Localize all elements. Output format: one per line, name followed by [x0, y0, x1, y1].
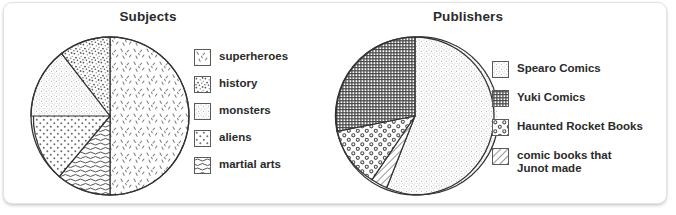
legend-swatch-superheroes-icon — [194, 49, 211, 66]
legend-item-monsters[interactable]: monsters — [194, 102, 334, 129]
legend-label-junot-comic-books: comic books that Junot made — [517, 147, 612, 175]
legend-item-yuki-comics[interactable]: Yuki Comics — [492, 89, 672, 118]
legend-swatch-martial-arts-icon — [194, 157, 211, 174]
legend-label-superheroes: superheroes — [219, 48, 288, 63]
subjects-chart-panel: Subjects — [4, 3, 336, 205]
legend-label-aliens: aliens — [219, 129, 252, 144]
legend-item-spearo-comics[interactable]: Spearo Comics — [492, 60, 672, 89]
subjects-legend: superheroes history monsters aliens — [194, 48, 334, 183]
legend-item-haunted-rocket-books[interactable]: Haunted Rocket Books — [492, 118, 672, 147]
legend-item-history[interactable]: history — [194, 75, 334, 102]
legend-label-yuki-comics: Yuki Comics — [517, 89, 585, 104]
legend-item-aliens[interactable]: aliens — [194, 129, 334, 156]
publishers-chart-panel: Publishers — [336, 3, 668, 205]
legend-item-junot-comic-books[interactable]: comic books that Junot made — [492, 147, 672, 187]
legend-item-martial-arts[interactable]: martial arts — [194, 156, 334, 183]
publishers-legend: Spearo Comics Yuki Comics Haunted Rocket… — [492, 60, 672, 187]
legend-swatch-monsters-icon — [194, 103, 211, 120]
legend-swatch-yuki-comics-icon — [492, 90, 509, 107]
legend-label-haunted-rocket-books: Haunted Rocket Books — [517, 118, 643, 133]
pie-slice-yuki-comics — [335, 37, 415, 131]
pie-slice-superheroes — [110, 37, 189, 195]
legend-label-monsters: monsters — [219, 102, 271, 117]
subjects-pie-chart — [28, 34, 192, 198]
legend-label-martial-arts: martial arts — [219, 156, 281, 171]
chart-card: Subjects — [3, 2, 667, 204]
legend-swatch-spearo-comics-icon — [492, 61, 509, 78]
legend-label-history: history — [219, 75, 257, 90]
publishers-pie-chart — [333, 34, 497, 198]
legend-swatch-haunted-rocket-books-icon — [492, 119, 509, 136]
subjects-chart-title: Subjects — [0, 9, 314, 24]
legend-item-superheroes[interactable]: superheroes — [194, 48, 334, 75]
legend-swatch-history-icon — [194, 76, 211, 93]
publishers-chart-title: Publishers — [302, 9, 634, 24]
legend-label-spearo-comics: Spearo Comics — [517, 60, 601, 75]
legend-swatch-junot-comic-books-icon — [492, 148, 509, 165]
legend-swatch-aliens-icon — [194, 130, 211, 147]
